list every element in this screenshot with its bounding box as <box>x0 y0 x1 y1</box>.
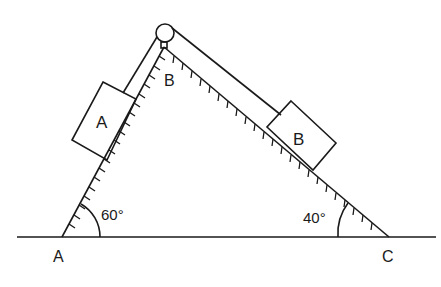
label-angle-40: 40° <box>303 209 326 226</box>
pulley-icon <box>156 24 174 42</box>
hatching-ab <box>69 56 165 228</box>
hatching-bc <box>173 56 372 230</box>
angle-arc-40 <box>338 203 348 237</box>
string-b <box>172 28 281 115</box>
label-point-b: B <box>164 72 175 89</box>
label-point-a: A <box>53 248 64 265</box>
string-a <box>123 37 157 93</box>
diagram-canvas: A B C A B 60° 40° <box>0 0 441 287</box>
label-block-b: B <box>293 130 304 149</box>
diagram-svg: A B C A B 60° 40° <box>0 0 441 287</box>
label-point-c: C <box>382 248 394 265</box>
label-block-a: A <box>96 113 108 132</box>
incline-bc <box>164 47 389 237</box>
label-angle-60: 60° <box>101 206 124 223</box>
